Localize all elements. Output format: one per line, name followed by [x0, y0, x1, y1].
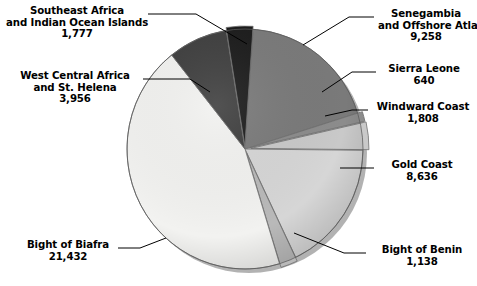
slice-label-southeast-africa: Southeast Africa and Indian Ocean Island…: [6, 5, 148, 40]
pie-shading-overlay: [127, 29, 363, 269]
slice-label-windward-coast-line1: Windward Coast: [371, 101, 475, 113]
slice-label-west-central-africa-line1: West Central Africa: [8, 70, 142, 82]
slice-label-bight-of-biafra: Bight of Biafra 21,432: [18, 239, 118, 262]
slice-label-bight-of-biafra-line1: Bight of Biafra: [18, 239, 118, 251]
slice-label-bight-of-biafra-value: 21,432: [18, 251, 118, 263]
slice-label-senegambia-line2: and Offshore Atlantic: [378, 20, 474, 32]
pie-chart: Southeast Africa and Indian Ocean Island…: [0, 0, 477, 286]
slice-label-southeast-africa-line2: and Indian Ocean Islands: [6, 17, 148, 29]
slice-label-southeast-africa-value: 1,777: [6, 28, 148, 40]
slice-label-gold-coast: Gold Coast 8,636: [380, 159, 464, 182]
slice-label-bight-of-benin-value: 1,138: [371, 256, 473, 268]
slice-label-gold-coast-value: 8,636: [380, 171, 464, 183]
slice-label-bight-of-benin-line1: Bight of Benin: [371, 244, 473, 256]
slice-label-gold-coast-line1: Gold Coast: [380, 159, 464, 171]
slice-label-west-central-africa-value: 3,956: [8, 93, 142, 105]
slice-label-sierra-leone-value: 640: [381, 75, 467, 87]
slice-label-senegambia-line1: Senegambia: [378, 8, 474, 20]
slice-label-sierra-leone-line1: Sierra Leone: [381, 63, 467, 75]
slice-label-west-central-africa-line2: and St. Helena: [8, 82, 142, 94]
leader-line-senegambia: [303, 17, 374, 45]
slice-label-west-central-africa: West Central Africa and St. Helena 3,956: [8, 70, 142, 105]
slice-label-senegambia-value: 9,258: [378, 31, 474, 43]
leader-line-bight-of-biafra: [118, 238, 166, 248]
slice-label-windward-coast: Windward Coast 1,808: [371, 101, 475, 124]
slice-label-senegambia: Senegambia and Offshore Atlantic 9,258: [378, 8, 474, 43]
slice-label-windward-coast-value: 1,808: [371, 113, 475, 125]
slice-label-southeast-africa-line1: Southeast Africa: [6, 5, 148, 17]
slice-label-sierra-leone: Sierra Leone 640: [381, 63, 467, 86]
slice-label-bight-of-benin: Bight of Benin 1,138: [371, 244, 473, 267]
